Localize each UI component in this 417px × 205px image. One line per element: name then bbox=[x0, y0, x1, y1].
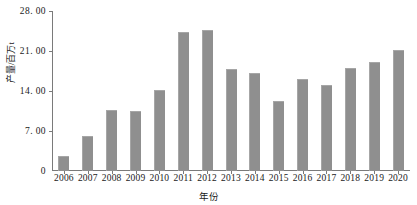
x-axis-tick-label: 2009 bbox=[126, 173, 146, 183]
y-axis-tick-label: 28. 00 bbox=[20, 6, 46, 16]
x-axis-tick-label: 2010 bbox=[149, 173, 169, 183]
x-axis-tick-label: 2015 bbox=[269, 173, 289, 183]
y-axis-tick-mark bbox=[49, 131, 52, 132]
bar-series bbox=[52, 11, 410, 171]
x-axis-tick-label: 2017 bbox=[317, 173, 337, 183]
y-axis-tick-mark bbox=[49, 91, 52, 92]
y-axis-tick-label: 14. 00 bbox=[20, 86, 46, 96]
bar bbox=[226, 69, 237, 171]
bar bbox=[249, 73, 260, 171]
x-axis-tick-label: 2013 bbox=[221, 173, 241, 183]
bar bbox=[154, 90, 165, 171]
bar bbox=[273, 101, 284, 171]
x-axis-tick-label: 2012 bbox=[197, 173, 217, 183]
x-axis-tick-label: 2019 bbox=[364, 173, 384, 183]
bar-chart: 产量/百万t 07. 0014. 0021. 0028. 00 20062007… bbox=[0, 0, 417, 205]
bar bbox=[297, 79, 308, 171]
plot-area bbox=[52, 11, 410, 171]
y-axis-tick-label: 0 bbox=[41, 166, 46, 176]
bar bbox=[106, 110, 117, 171]
y-axis-tick-mark bbox=[49, 51, 52, 52]
bar bbox=[393, 50, 404, 171]
x-axis-tick-label: 2008 bbox=[102, 173, 122, 183]
bar bbox=[178, 32, 189, 171]
y-axis-tick-labels: 07. 0014. 0021. 0028. 00 bbox=[0, 0, 50, 205]
x-axis-tick-label: 2018 bbox=[340, 173, 360, 183]
y-axis-tick-label: 21. 00 bbox=[20, 46, 46, 56]
x-axis-tick-label: 2020 bbox=[388, 173, 408, 183]
x-axis-tick-label: 2016 bbox=[293, 173, 313, 183]
bar bbox=[202, 30, 213, 171]
bar bbox=[321, 85, 332, 171]
bar bbox=[58, 156, 69, 171]
bar bbox=[130, 111, 141, 171]
x-axis-tick-labels: 2006200720082009201020112012201320142015… bbox=[52, 173, 410, 187]
y-axis-tick-mark bbox=[49, 11, 52, 12]
x-axis-tick-label: 2007 bbox=[78, 173, 98, 183]
x-axis-tick-label: 2006 bbox=[54, 173, 74, 183]
bar bbox=[369, 62, 380, 171]
bar bbox=[345, 68, 356, 171]
x-axis-title: 年份 bbox=[0, 189, 417, 203]
y-axis-tick-label: 7. 00 bbox=[25, 126, 46, 136]
x-axis-tick-label: 2011 bbox=[174, 173, 193, 183]
bar bbox=[82, 136, 93, 171]
x-axis-tick-label: 2014 bbox=[245, 173, 265, 183]
